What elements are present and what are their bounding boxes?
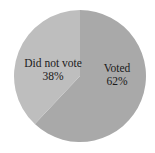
slice-name-voted: Voted — [100, 62, 134, 75]
slice-label-voted: Voted 62% — [100, 62, 134, 88]
slice-name-did-not-vote: Did not vote — [20, 57, 86, 70]
slice-pct-did-not-vote: 38% — [20, 70, 86, 83]
slice-label-did-not-vote: Did not vote 38% — [20, 57, 86, 83]
slice-pct-voted: 62% — [100, 75, 134, 88]
